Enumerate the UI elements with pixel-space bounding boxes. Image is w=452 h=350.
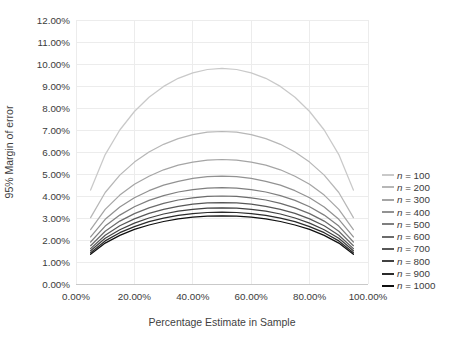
y-tick-label: 3.00% <box>10 213 70 224</box>
legend-swatch-line <box>382 285 394 287</box>
legend-swatch-line <box>382 273 394 275</box>
legend-swatch-line <box>382 223 394 225</box>
x-tick-label: 100.00% <box>338 291 398 302</box>
legend-label: n = 900 <box>397 268 430 279</box>
legend-swatch-line <box>382 211 394 213</box>
legend-item: n = 600 <box>382 230 435 242</box>
y-tick-label: 12.00% <box>10 15 70 26</box>
x-tick-label: 0.00% <box>46 291 106 302</box>
y-tick-label: 2.00% <box>10 235 70 246</box>
legend-swatch-line <box>382 248 394 250</box>
legend-item: n = 1000 <box>382 280 435 292</box>
x-tick-label: 60.00% <box>221 291 281 302</box>
legend-swatch-line <box>382 186 394 188</box>
y-tick-label: 7.00% <box>10 125 70 136</box>
legend-item: n = 500 <box>382 218 435 230</box>
legend-swatch-line <box>382 174 394 176</box>
series-line <box>91 132 354 218</box>
y-tick-label: 9.00% <box>10 81 70 92</box>
y-tick-label: 8.00% <box>10 103 70 114</box>
series-line <box>91 68 354 190</box>
legend-item: n = 900 <box>382 267 435 279</box>
legend-swatch-line <box>382 236 394 238</box>
legend-item: n = 400 <box>382 206 435 218</box>
legend-swatch-line <box>382 199 394 201</box>
legend-label: n = 700 <box>397 243 430 254</box>
y-tick-label: 4.00% <box>10 191 70 202</box>
y-tick-label: 1.00% <box>10 257 70 268</box>
legend-label: n = 600 <box>397 231 430 242</box>
legend-item: n = 700 <box>382 243 435 255</box>
legend-label: n = 100 <box>397 170 430 181</box>
series-line <box>91 160 354 230</box>
y-tick-label: 10.00% <box>10 59 70 70</box>
x-axis-title: Percentage Estimate in Sample <box>76 316 368 328</box>
legend-item: n = 800 <box>382 255 435 267</box>
legend-label: n = 300 <box>397 194 430 205</box>
series-line <box>91 208 354 251</box>
x-tick-label: 40.00% <box>163 291 223 302</box>
y-tick-label: 5.00% <box>10 169 70 180</box>
y-tick-label: 0.00% <box>10 279 70 290</box>
legend-item: n = 300 <box>382 194 435 206</box>
y-tick-label: 11.00% <box>10 37 70 48</box>
legend: n = 100n = 200n = 300n = 400n = 500n = 6… <box>382 169 435 292</box>
x-tick-label: 80.00% <box>280 291 340 302</box>
y-tick-label: 6.00% <box>10 147 70 158</box>
legend-label: n = 500 <box>397 219 430 230</box>
legend-swatch-line <box>382 260 394 262</box>
legend-label: n = 1000 <box>397 280 435 291</box>
margin-of-error-chart: 95% Margin of error Percentage Estimate … <box>0 0 452 350</box>
legend-item: n = 200 <box>382 181 435 193</box>
legend-label: n = 200 <box>397 182 430 193</box>
legend-label: n = 400 <box>397 207 430 218</box>
legend-item: n = 100 <box>382 169 435 181</box>
legend-label: n = 800 <box>397 256 430 267</box>
x-tick-label: 20.00% <box>104 291 164 302</box>
